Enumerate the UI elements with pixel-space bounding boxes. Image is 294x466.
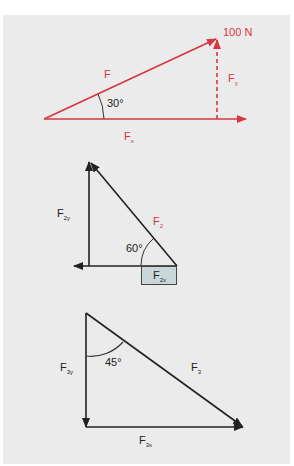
angle-arc-30 [98, 94, 104, 119]
fx-label: Fx [124, 131, 134, 144]
f2y-label: F2y [57, 208, 70, 221]
f2-label: F2 [153, 216, 163, 229]
force-f-arrow [44, 39, 216, 119]
diagram-3 [86, 313, 243, 427]
angle-45-label: 45° [105, 357, 122, 368]
force-f3-arrow [86, 313, 242, 426]
angle-arc-60 [141, 238, 154, 266]
angle-60-label: 60° [126, 243, 143, 254]
diagram-1 [44, 39, 246, 119]
f3x-label: F3x [139, 435, 152, 448]
angle-arc-45 [86, 342, 123, 356]
f3-label: F3 [191, 362, 201, 375]
f2x-label: F2x [153, 270, 166, 283]
fy-label: Fy [228, 73, 238, 86]
f3y-label: F3y [60, 362, 73, 375]
vector-f-label: F [104, 69, 111, 80]
angle-30-label: 30° [107, 98, 124, 109]
magnitude-label: 100 N [223, 27, 252, 38]
vector-diagrams [0, 0, 294, 466]
